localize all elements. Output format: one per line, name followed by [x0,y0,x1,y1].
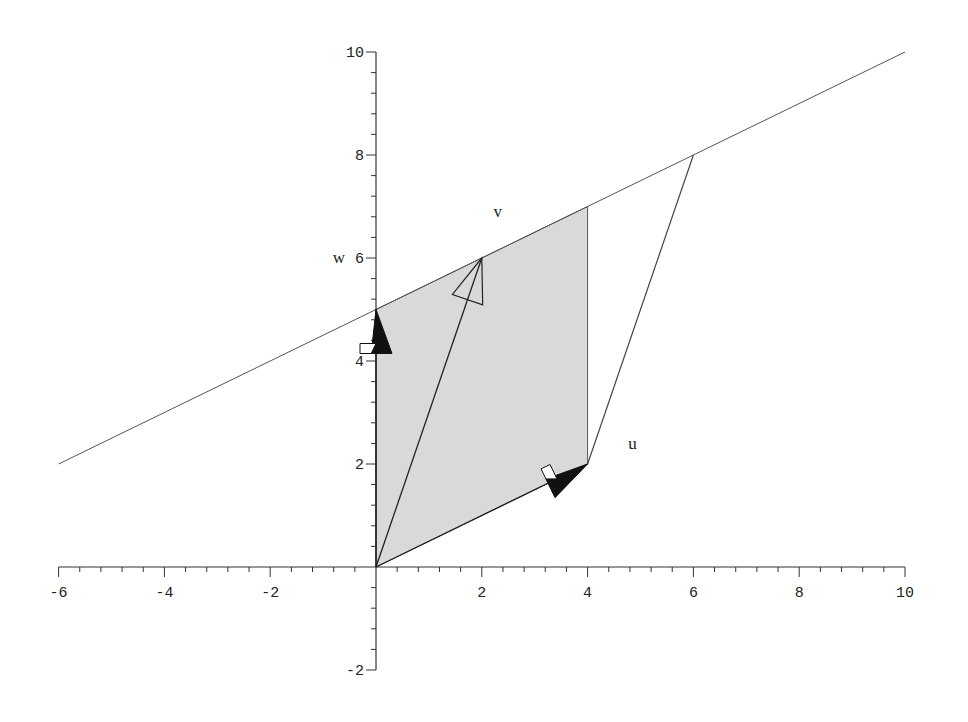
x-tick-label: 10 [896,585,914,602]
outline-segment [588,155,694,464]
x-tick-label: 4 [583,585,592,602]
y-tick-label: 4 [355,354,364,371]
vector-label-w: w [333,248,346,267]
y-tick-label: 2 [355,457,364,474]
x-tick-label: -6 [50,585,68,602]
x-tick-label: 6 [689,585,698,602]
y-tick-label: 10 [346,45,364,62]
y-tick-label: -2 [346,663,364,680]
vector-plot: -6-4-2246810-2246810 uvw [0,0,968,722]
y-tick-label: 6 [355,251,364,268]
x-tick-label: -2 [261,585,279,602]
vector-label-u: u [628,434,637,453]
x-tick-label: -4 [155,585,173,602]
x-tick-label: 2 [477,585,486,602]
plot-shapes [59,52,905,567]
y-tick-label: 8 [355,148,364,165]
x-tick-label: 8 [795,585,804,602]
vector-label-v: v [493,202,502,221]
